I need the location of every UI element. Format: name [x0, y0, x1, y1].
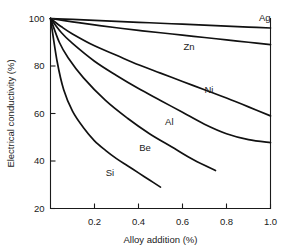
- conductivity-line-chart: 204060801000.20.40.60.81.0 AgZnNiAlBeSi …: [0, 0, 284, 249]
- y-axis-title: Electrical conductivity (%): [5, 59, 16, 167]
- chart-series-labels: AgZnNiAlBeSi: [106, 12, 271, 179]
- chart-figure: 204060801000.20.40.60.81.0 AgZnNiAlBeSi …: [0, 0, 284, 249]
- chart-axes: [51, 19, 271, 209]
- x-axis-title: Alloy addition (%): [124, 234, 198, 245]
- y-tick-label-80: 80: [34, 60, 45, 71]
- series-label-al: Al: [165, 116, 173, 127]
- series-label-be: Be: [139, 142, 151, 153]
- series-label-ni: Ni: [204, 84, 213, 95]
- curve-al: [51, 19, 271, 143]
- y-tick-label-20: 20: [34, 203, 45, 214]
- axis-spine-left-bottom: [51, 19, 271, 209]
- series-label-ag: Ag: [259, 12, 271, 23]
- y-tick-label-100: 100: [29, 13, 45, 24]
- curve-si: [51, 19, 161, 188]
- x-tick-label-1.0: 1.0: [264, 216, 277, 227]
- series-label-zn: Zn: [184, 41, 195, 52]
- chart-tick-marks: [51, 19, 271, 209]
- series-label-si: Si: [106, 167, 114, 178]
- chart-series-curves: [51, 19, 271, 188]
- x-tick-label-0.2: 0.2: [88, 216, 101, 227]
- chart-tick-labels: 204060801000.20.40.60.81.0: [29, 13, 277, 227]
- chart-axis-titles: Alloy addition (%)Electrical conductivit…: [5, 59, 197, 244]
- y-tick-label-60: 60: [34, 108, 45, 119]
- x-tick-label-0.6: 0.6: [176, 216, 189, 227]
- y-tick-label-40: 40: [34, 155, 45, 166]
- x-tick-label-0.4: 0.4: [132, 216, 145, 227]
- x-tick-label-0.8: 0.8: [220, 216, 233, 227]
